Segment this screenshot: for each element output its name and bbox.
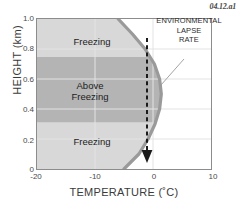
band-label-text-line1: Above bbox=[77, 80, 104, 91]
x-tick-label: 0 bbox=[139, 172, 169, 181]
band-label-above-freezing: Above Freezing bbox=[45, 80, 135, 102]
x-tick-label: -10 bbox=[80, 172, 110, 181]
y-axis-title: HEIGHT (km) bbox=[11, 5, 23, 115]
band-label-text-line2: Freezing bbox=[72, 91, 109, 102]
x-axis-title: TEMPERATURE (˚C) bbox=[36, 186, 212, 198]
annotation-line-2: LAPSE bbox=[177, 26, 202, 35]
lapse-rate-annotation: ENVIRONMENTAL LAPSE RATE bbox=[150, 16, 228, 45]
band-label-text: Freezing bbox=[74, 136, 111, 147]
x-tick-label: 10 bbox=[198, 172, 228, 181]
annotation-line-3: RATE bbox=[179, 35, 199, 44]
band-label-lower-freezing: Freezing bbox=[47, 136, 137, 147]
lapse-rate-figure: 04.12.a1 1.0 0.8 0.6 0.4 0.2 0 -20 -10 0… bbox=[0, 0, 242, 210]
band-label-upper-freezing: Freezing bbox=[47, 36, 137, 47]
annotation-line-1: ENVIRONMENTAL bbox=[156, 16, 221, 25]
x-tick-label: -20 bbox=[21, 172, 51, 181]
band-label-text: Freezing bbox=[74, 36, 111, 47]
figure-id-label: 04.12.a1 bbox=[210, 2, 236, 11]
y-tick-label: 0.2 bbox=[6, 136, 34, 145]
